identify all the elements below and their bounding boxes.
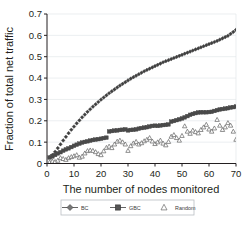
chart-canvas: 00.10.20.30.40.50.60.7 010203040506070 F… — [0, 0, 249, 225]
y-tick-label: 0.7 — [29, 8, 42, 19]
x-tick-label: 50 — [177, 168, 188, 179]
x-tick-label: 0 — [44, 168, 49, 179]
x-tick-label: 20 — [96, 168, 107, 179]
y-tick-label: 0.1 — [29, 137, 42, 148]
x-tick-label: 30 — [123, 168, 134, 179]
legend-label: Random — [175, 205, 196, 211]
legend-marker-square — [115, 205, 120, 210]
y-tick-label: 0.6 — [29, 30, 42, 41]
legend-label: GBC — [129, 205, 141, 211]
y-tick-label: 0.5 — [29, 51, 42, 62]
x-tick-label: 60 — [204, 168, 215, 179]
y-tick-label: 0.2 — [29, 115, 42, 126]
legend-label: BC — [81, 205, 89, 211]
x-tick-label: 10 — [69, 168, 80, 179]
y-tick-label: 0.3 — [29, 94, 42, 105]
chart-legend: BCGBCRandom — [61, 200, 196, 215]
y-axis-title: Fraction of total net traffic — [3, 27, 15, 151]
chart-figure: 00.10.20.30.40.50.60.7 010203040506070 F… — [0, 0, 249, 225]
data-point-square — [105, 136, 109, 140]
x-tick-label: 70 — [231, 168, 242, 179]
x-tick-label: 40 — [150, 168, 161, 179]
x-axis-title: The number of nodes monitored — [63, 183, 220, 195]
y-tick-label: 0 — [37, 158, 42, 169]
y-tick-label: 0.4 — [29, 72, 42, 83]
